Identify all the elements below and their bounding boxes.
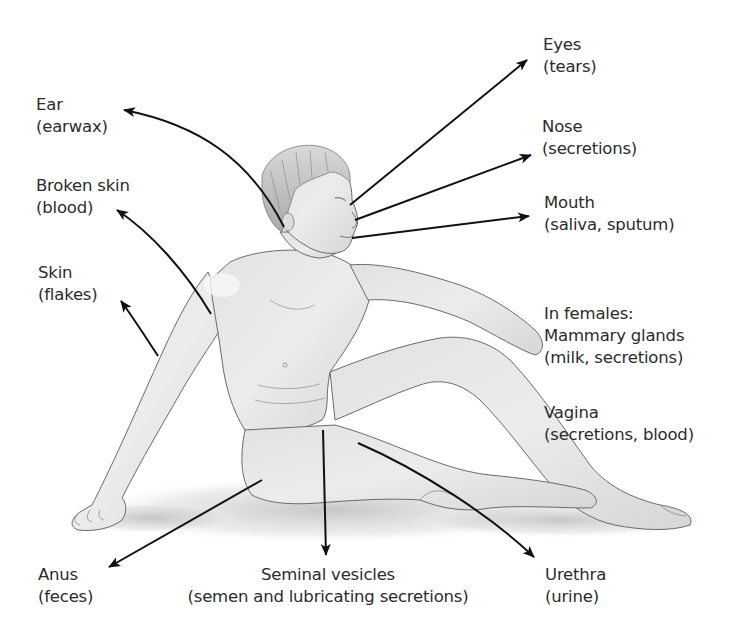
label-eyes: Eyes (tears) — [543, 34, 597, 78]
head — [262, 145, 358, 253]
arrow-mouth — [352, 216, 529, 238]
label-anus-detail: (feces) — [38, 586, 93, 608]
label-urethra-title: Urethra — [545, 564, 606, 586]
label-mammary-glands: In females: Mammary glands (milk, secret… — [544, 303, 684, 369]
label-mammary-glands-detail: (milk, secretions) — [544, 347, 684, 369]
label-skin-detail: (flakes) — [38, 284, 98, 306]
label-urethra-detail: (urine) — [545, 586, 606, 608]
arrow-eyes — [350, 60, 527, 205]
label-nose-detail: (secretions) — [542, 138, 637, 160]
label-broken-skin: Broken skin (blood) — [36, 175, 130, 219]
label-skin-title: Skin — [38, 262, 98, 284]
label-nose: Nose (secretions) — [542, 116, 637, 160]
label-eyes-title: Eyes — [543, 34, 597, 56]
label-seminal-vesicles-detail: (semen and lubricating secretions) — [178, 586, 478, 608]
label-mouth-detail: (saliva, sputum) — [544, 214, 674, 236]
arrow-ear — [124, 110, 284, 227]
label-nose-title: Nose — [542, 116, 637, 138]
label-anus-title: Anus — [38, 564, 93, 586]
label-vagina-title: Vagina — [544, 402, 694, 424]
label-ear-title: Ear — [36, 94, 108, 116]
label-mammary-glands-title: Mammary glands — [544, 325, 684, 347]
arrow-skin — [121, 301, 158, 356]
label-anus: Anus (feces) — [38, 564, 93, 608]
label-mouth: Mouth (saliva, sputum) — [544, 192, 674, 236]
label-vagina: Vagina (secretions, blood) — [544, 402, 694, 446]
label-ear: Ear (earwax) — [36, 94, 108, 138]
arrow-nose — [355, 155, 531, 220]
label-urethra: Urethra (urine) — [545, 564, 606, 608]
body-fluids-diagram: Ear (earwax) Broken skin (blood) Skin (f… — [0, 0, 736, 641]
label-ear-detail: (earwax) — [36, 116, 108, 138]
label-vagina-detail: (secretions, blood) — [544, 424, 694, 446]
label-seminal-vesicles: Seminal vesicles (semen and lubricating … — [178, 564, 478, 608]
label-mouth-title: Mouth — [544, 192, 674, 214]
label-broken-skin-title: Broken skin — [36, 175, 130, 197]
label-skin: Skin (flakes) — [38, 262, 98, 306]
label-females-title: In females: — [544, 303, 684, 325]
label-broken-skin-detail: (blood) — [36, 197, 130, 219]
label-seminal-vesicles-title: Seminal vesicles — [178, 564, 478, 586]
label-eyes-detail: (tears) — [543, 56, 597, 78]
